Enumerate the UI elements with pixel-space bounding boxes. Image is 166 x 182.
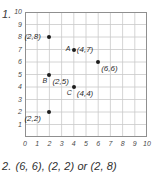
y-tick-7: 7 <box>10 46 22 54</box>
point-label-6-6: (6,6) <box>101 64 117 73</box>
point-dot-4-4 <box>72 85 76 89</box>
point-label-2-5: (2,5) <box>52 77 68 86</box>
worksheet-problem: 1. 12345678910 012345678910 (2,8)(4,7)A(… <box>0 0 166 182</box>
point-dot-4-7 <box>72 48 76 52</box>
x-tick-4: 4 <box>68 140 80 148</box>
x-tick-9: 9 <box>129 140 141 148</box>
x-tick-1: 1 <box>31 140 43 148</box>
x-tick-8: 8 <box>117 140 129 148</box>
y-tick-4: 4 <box>10 83 22 91</box>
y-tick-3: 3 <box>10 96 22 104</box>
point-letter-C: C <box>67 89 72 97</box>
point-label-4-4: (4,4) <box>77 89 93 98</box>
point-letter-B: B <box>42 77 47 85</box>
y-tick-6: 6 <box>10 58 22 66</box>
point-dot-2-5 <box>47 73 51 77</box>
x-tick-0: 0 <box>19 140 31 148</box>
y-tick-2: 2 <box>10 108 22 116</box>
point-label-2-8: (2,8) <box>24 32 40 41</box>
point-letter-A: A <box>66 45 71 53</box>
y-tick-10: 10 <box>10 8 22 16</box>
y-tick-5: 5 <box>10 71 22 79</box>
x-tick-6: 6 <box>92 140 104 148</box>
answer-number: 2. <box>2 160 11 172</box>
y-tick-1: 1 <box>10 121 22 129</box>
answer-text: (6, 6), (2, 2) or (2, 8) <box>15 160 116 172</box>
x-tick-7: 7 <box>104 140 116 148</box>
y-tick-9: 9 <box>10 21 22 29</box>
x-tick-3: 3 <box>56 140 68 148</box>
point-label-2-2: (2,2) <box>24 114 40 123</box>
y-tick-8: 8 <box>10 33 22 41</box>
x-tick-10: 10 <box>141 140 153 148</box>
x-tick-2: 2 <box>43 140 55 148</box>
grid-frame <box>25 12 147 137</box>
x-tick-5: 5 <box>80 140 92 148</box>
point-label-4-7: (4,7) <box>77 45 93 54</box>
grid-lines <box>25 12 147 137</box>
coordinate-grid-plot: 12345678910 012345678910 (2,8)(4,7)A(6,6… <box>25 12 147 137</box>
answer-line: 2.(6, 6), (2, 2) or (2, 8) <box>2 160 117 172</box>
